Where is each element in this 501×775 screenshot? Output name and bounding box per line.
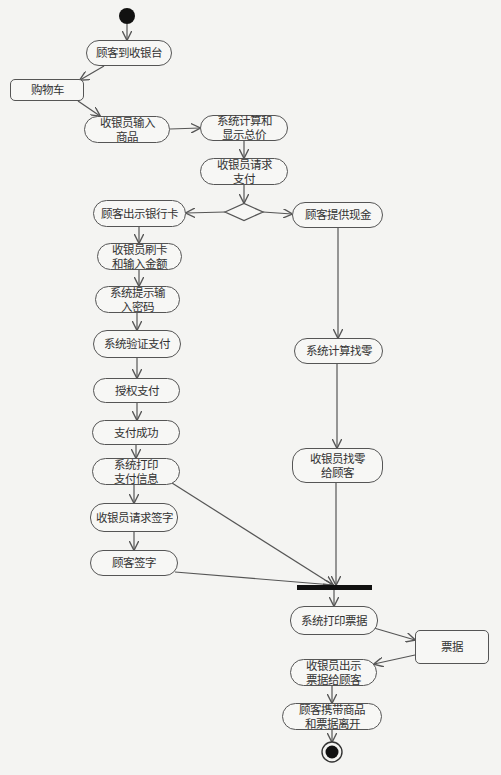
final-node (322, 742, 342, 762)
action-node-prompt-pin: 系统提示输 入密码 (95, 286, 180, 313)
join-bar (297, 585, 372, 590)
node-label: 顾客提供现金 (305, 208, 371, 222)
action-node-print-receipt: 系统打印票据 (290, 606, 378, 635)
flow-arrow (186, 212, 225, 213)
node-label: 收银员请求签字 (96, 511, 173, 525)
flow-arrow (80, 66, 104, 80)
node-label: 顾客到收银台 (96, 46, 162, 60)
object-node-cart: 购物车 (10, 79, 84, 101)
action-node-print-pay-info: 系统打印 支付信息 (92, 458, 180, 485)
object-node-receipt: 票据 (415, 630, 489, 664)
node-label: 授权支付 (115, 384, 159, 398)
flow-arrow (172, 483, 333, 585)
node-label: 收银员出示 票据给顾客 (306, 659, 361, 687)
action-node-calc-total: 系统计算和 显示总价 (200, 115, 288, 141)
action-node-leave: 顾客携带商品 和票据离开 (282, 703, 382, 730)
action-node-enter-items: 收银员输入 商品 (84, 116, 170, 143)
node-label: 系统打印票据 (301, 614, 367, 628)
flow-arrow (78, 101, 100, 116)
action-node-verify-pay: 系统验证支付 (93, 330, 181, 358)
node-label: 顾客签字 (112, 556, 156, 570)
node-label: 系统计算和 显示总价 (217, 114, 272, 142)
action-node-show-card: 顾客出示银行卡 (93, 200, 186, 227)
node-label: 收银员输入 商品 (100, 116, 155, 144)
node-label: 系统打印 支付信息 (114, 458, 158, 486)
action-node-customer-sign: 顾客签字 (90, 550, 178, 576)
node-label: 系统计算找零 (306, 344, 372, 358)
action-node-request-pay: 收银员请求 支付 (200, 158, 288, 185)
action-node-request-sign: 收银员请求签字 (90, 503, 178, 532)
node-label: 收银员请求 支付 (217, 158, 272, 186)
action-node-show-receipt: 收银员出示 票据给顾客 (290, 659, 377, 686)
flow-arrow (170, 128, 200, 129)
flow-arrow (374, 628, 415, 640)
decision-node (225, 204, 263, 221)
activity-diagram: 顾客到收银台购物车收银员输入 商品系统计算和 显示总价收银员请求 支付顾客出示银… (0, 0, 501, 775)
node-label: 系统验证支付 (104, 337, 170, 351)
flow-arrow (175, 572, 333, 585)
node-label: 收银员找零 给顾客 (310, 452, 365, 480)
action-node-authorize: 授权支付 (93, 378, 180, 403)
action-node-give-change: 收银员找零 给顾客 (292, 448, 383, 483)
action-node-calc-change: 系统计算找零 (294, 338, 383, 364)
node-label: 购物车 (31, 83, 64, 97)
action-node-pay-success: 支付成功 (92, 420, 180, 445)
node-label: 顾客携带商品 和票据离开 (299, 703, 365, 731)
initial-node (119, 8, 135, 24)
action-node-swipe-card: 收银员刷卡 和输入金额 (97, 243, 182, 270)
flow-arrow (374, 655, 415, 664)
node-label: 收银员刷卡 和输入金额 (112, 243, 167, 271)
action-node-arrive: 顾客到收银台 (86, 40, 172, 66)
node-label: 支付成功 (114, 426, 158, 440)
node-label: 票据 (441, 640, 463, 654)
node-label: 系统提示输 入密码 (110, 286, 165, 314)
action-node-give-cash: 顾客提供现金 (292, 202, 383, 228)
flow-arrow (263, 212, 292, 214)
node-label: 顾客出示银行卡 (101, 207, 178, 221)
